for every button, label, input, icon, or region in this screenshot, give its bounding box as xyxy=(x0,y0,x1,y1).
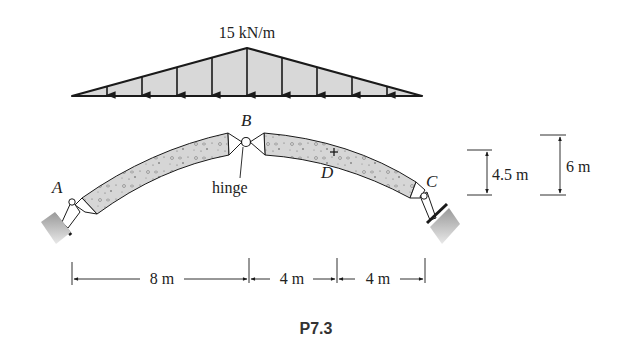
dimension-label-4m-1: 4 m xyxy=(280,270,305,287)
horizontal-dimensions: 8 m 4 m 4 m xyxy=(72,258,425,287)
arch-diagram: 15 kN/m A B C D hinge xyxy=(0,0,635,358)
figure-caption: P7.3 xyxy=(300,320,333,337)
pin-support-a xyxy=(41,198,97,244)
hinge-leader-line xyxy=(240,147,243,178)
hinge-label: hinge xyxy=(212,179,248,197)
dimension-4-5m: 4.5 m xyxy=(467,150,529,195)
arch-bc-body xyxy=(264,133,416,198)
hinge-pin-icon xyxy=(242,138,251,147)
distributed-load: 15 kN/m xyxy=(72,24,422,96)
arch-segment-bc xyxy=(264,133,416,198)
dimension-label-8m: 8 m xyxy=(150,270,175,287)
arch-ab-body xyxy=(82,133,229,214)
dimension-label-6m: 6 m xyxy=(566,158,591,175)
hinge-b xyxy=(228,133,265,178)
label-b: B xyxy=(241,111,252,130)
label-c: C xyxy=(426,172,438,191)
dimension-label-4m-2: 4 m xyxy=(366,270,391,287)
dimension-label-4-5m: 4.5 m xyxy=(492,166,529,183)
dimension-6m: 6 m xyxy=(540,135,591,195)
label-a: A xyxy=(51,178,63,197)
load-label: 15 kN/m xyxy=(219,24,276,41)
pin-support-c xyxy=(410,182,460,244)
arch-segment-ab xyxy=(82,133,229,214)
label-d: D xyxy=(320,163,334,182)
